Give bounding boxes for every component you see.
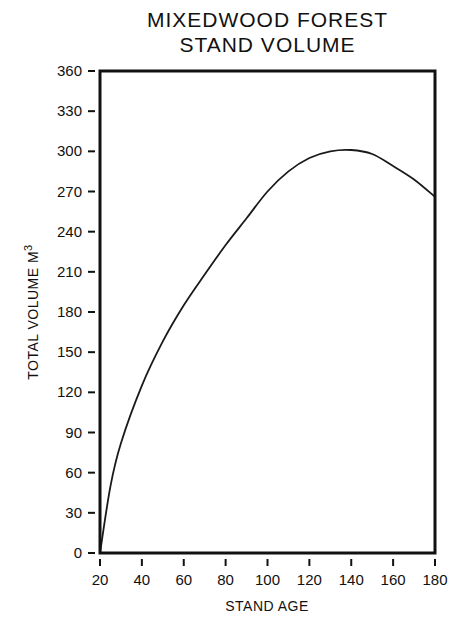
x-tick-label: 100 — [255, 571, 280, 588]
y-tick-label: 210 — [57, 263, 82, 280]
y-tick-label: 240 — [57, 223, 82, 240]
volume-curve — [100, 150, 435, 553]
x-tick-label: 180 — [422, 571, 447, 588]
x-tick-label: 120 — [297, 571, 322, 588]
x-tick-label: 60 — [175, 571, 192, 588]
plot-frame — [100, 71, 435, 553]
y-tick-label: 90 — [65, 424, 82, 441]
line-chart: 0306090120150180210240270300330360 20406… — [0, 0, 463, 628]
x-axis-label: STAND AGE — [225, 598, 309, 614]
y-axis-ticks: 0306090120150180210240270300330360 — [57, 62, 95, 561]
x-axis-ticks: 20406080100120140160180 — [92, 559, 448, 588]
y-axis-label: TOTAL VOLUME M3 — [22, 244, 41, 380]
y-tick-label: 120 — [57, 383, 82, 400]
y-tick-label: 180 — [57, 303, 82, 320]
y-tick-label: 270 — [57, 183, 82, 200]
y-tick-label: 30 — [65, 504, 82, 521]
x-tick-label: 20 — [92, 571, 109, 588]
x-tick-label: 80 — [217, 571, 234, 588]
y-tick-label: 0 — [74, 544, 82, 561]
y-tick-label: 60 — [65, 464, 82, 481]
x-tick-label: 160 — [381, 571, 406, 588]
y-tick-label: 150 — [57, 343, 82, 360]
y-tick-label: 330 — [57, 102, 82, 119]
y-tick-label: 300 — [57, 142, 82, 159]
y-tick-label: 360 — [57, 62, 82, 79]
x-tick-label: 140 — [339, 571, 364, 588]
x-tick-label: 40 — [134, 571, 151, 588]
